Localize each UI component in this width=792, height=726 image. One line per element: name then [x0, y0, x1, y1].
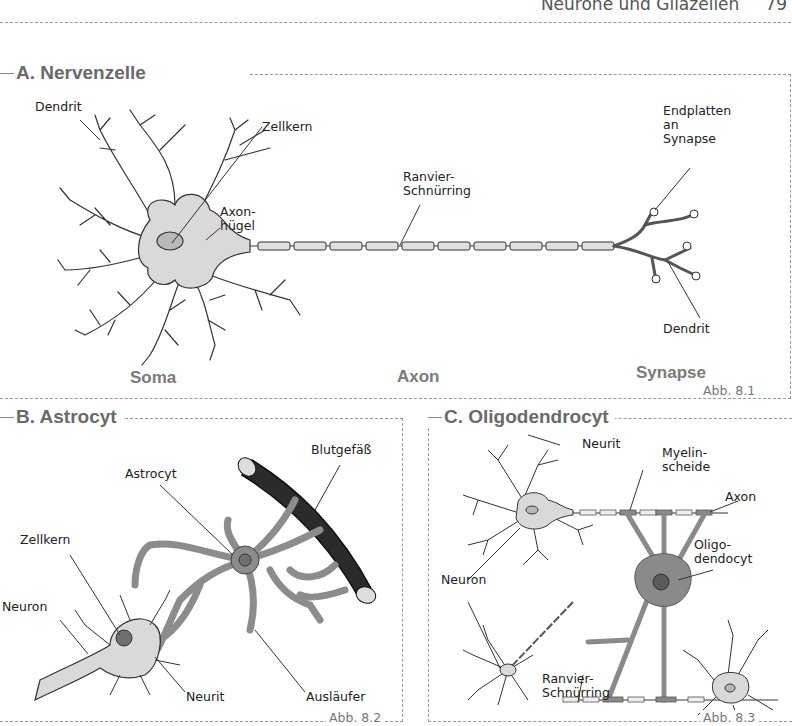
label-axon-c: Axon	[725, 490, 756, 504]
label-endplatten: Endplatten an Synapse	[663, 104, 731, 146]
section-axon: Axon	[397, 367, 440, 387]
figure-number-a: Abb. 8.1	[700, 383, 758, 398]
label-dendrit-synapse: Dendrit	[663, 322, 710, 336]
neuron-body-b	[35, 619, 160, 700]
astrocyte-illustration	[0, 420, 402, 720]
title-dash	[0, 417, 14, 418]
figure-number-b: Abb. 8.2	[326, 710, 384, 725]
label-neurit-b: Neurit	[186, 690, 224, 704]
nucleus	[157, 232, 183, 250]
label-blutgefaess: Blutgefäß	[311, 443, 371, 457]
label-zellkern-b: Zellkern	[20, 533, 71, 547]
label-myelinscheide: Myelin- scheide	[662, 446, 710, 474]
label-axonhuegel: Axon- hügel	[220, 205, 256, 233]
section-soma: Soma	[130, 368, 176, 388]
section-synapse: Synapse	[636, 363, 706, 383]
label-neuron-c: Neuron	[441, 573, 486, 587]
label-auslaeufer: Ausläufer	[306, 690, 365, 704]
neuron-illustration	[0, 0, 791, 400]
label-neuron-b: Neuron	[2, 600, 47, 614]
label-oligodendocyt: Oligo- dendocyt	[694, 538, 752, 566]
label-ranvier-c: Ranvier- Schnürring	[542, 672, 610, 700]
label-ranvier: Ranvier- Schnürring	[403, 170, 471, 198]
figure-number-c: Abb. 8.3	[700, 710, 758, 725]
title-dash	[428, 417, 442, 418]
label-neurit-c: Neurit	[582, 437, 620, 451]
label-astrocyt: Astrocyt	[125, 467, 177, 481]
label-zellkern: Zellkern	[262, 120, 313, 134]
label-dendrit: Dendrit	[35, 100, 82, 114]
